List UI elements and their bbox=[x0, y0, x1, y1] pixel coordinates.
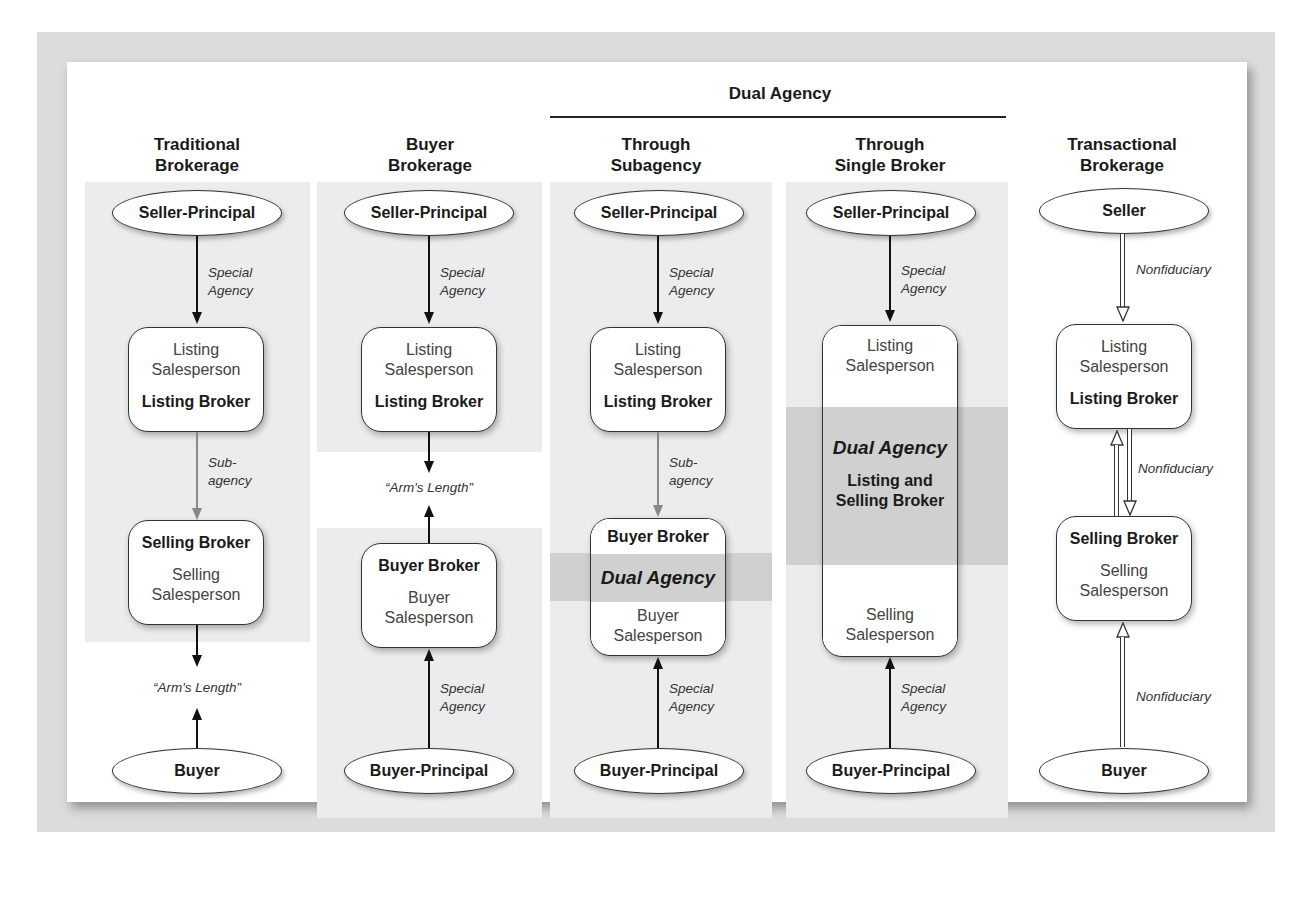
arrowhead-down-icon bbox=[424, 461, 434, 473]
hollow-arrowhead-down-icon bbox=[1116, 306, 1130, 322]
label-nonfiduciary: Nonfiduciary bbox=[1136, 261, 1211, 279]
arrow-special-agency bbox=[889, 236, 891, 312]
arrow-arms-length-down bbox=[196, 625, 198, 655]
arrow-special-agency bbox=[196, 236, 198, 314]
hollow-arrowhead-up-icon bbox=[1110, 430, 1124, 446]
arrowhead-down-icon bbox=[885, 310, 895, 322]
arrowhead-down-icon bbox=[192, 312, 202, 324]
arrowhead-down-icon bbox=[192, 508, 202, 520]
node-seller-principal: Seller-Principal bbox=[806, 190, 976, 236]
label-special-agency: SpecialAgency bbox=[901, 262, 946, 298]
hollow-arrowhead-up-icon bbox=[1116, 622, 1130, 638]
column-title-traditional: TraditionalBrokerage bbox=[97, 134, 297, 176]
node-seller-principal: Seller-Principal bbox=[112, 190, 282, 236]
arrow-special-agency bbox=[657, 236, 659, 314]
arrowhead-down-icon bbox=[192, 655, 202, 667]
arrow-arms-length-up bbox=[428, 515, 430, 543]
box-listing-broker: Listing Salesperson Listing Broker bbox=[590, 327, 726, 432]
label-special-agency: SpecialAgency bbox=[208, 264, 253, 300]
label-subagency: Sub-agency bbox=[669, 454, 713, 490]
label-special-agency: SpecialAgency bbox=[440, 680, 485, 716]
box-buyer-broker: Buyer Broker Buyer Salesperson bbox=[361, 543, 497, 648]
box-selling-broker: Selling Broker Selling Salesperson bbox=[128, 520, 264, 625]
label-arms-length: “Arm's Length” bbox=[349, 480, 509, 495]
arrow-arms-length-down bbox=[428, 432, 430, 462]
column-title-transactional: TransactionalBrokerage bbox=[1022, 134, 1222, 176]
column-title-subagency: ThroughSubagency bbox=[556, 134, 756, 176]
panel-subagency bbox=[550, 182, 772, 818]
arrow-special-agency-up bbox=[889, 668, 891, 748]
box-selling-broker: Selling Broker Selling Salesperson bbox=[1056, 516, 1192, 621]
box-listing-broker: Listing Salesperson Listing Broker bbox=[128, 327, 264, 432]
label-special-agency: SpecialAgency bbox=[669, 680, 714, 716]
node-buyer: Buyer bbox=[1039, 748, 1209, 794]
arrow-special-agency-up bbox=[657, 668, 659, 748]
arrow-special-agency-up bbox=[428, 660, 430, 748]
label-special-agency: SpecialAgency bbox=[669, 264, 714, 300]
node-buyer-principal: Buyer-Principal bbox=[806, 748, 976, 794]
nonfiduciary-link-down bbox=[1127, 429, 1132, 501]
node-buyer-principal: Buyer-Principal bbox=[574, 748, 744, 794]
hollow-arrowhead-down-icon bbox=[1123, 500, 1137, 516]
label-arms-length: “Arm's Length” bbox=[117, 680, 277, 695]
arrowhead-down-icon bbox=[653, 312, 663, 324]
arrow-subagency bbox=[657, 432, 659, 507]
node-seller: Seller bbox=[1039, 188, 1209, 234]
label-special-agency: SpecialAgency bbox=[901, 680, 946, 716]
node-buyer: Buyer bbox=[112, 748, 282, 794]
nonfiduciary-link bbox=[1120, 637, 1125, 747]
dual-agency-label: Dual Agency bbox=[591, 554, 725, 602]
column-title-buyer: BuyerBrokerage bbox=[330, 134, 530, 176]
dual-agency-label: Dual Agency bbox=[823, 437, 957, 459]
label-nonfiduciary: Nonfiduciary bbox=[1138, 460, 1213, 478]
dual-agency-group-rule bbox=[550, 116, 1006, 118]
label-subagency: Sub-agency bbox=[208, 454, 252, 490]
box-single-broker-dual: Listing Salesperson Dual Agency Listing … bbox=[822, 325, 958, 657]
arrowhead-down-icon bbox=[653, 505, 663, 517]
nonfiduciary-link bbox=[1120, 234, 1125, 308]
label-special-agency: SpecialAgency bbox=[440, 264, 485, 300]
dual-agency-group-title: Dual Agency bbox=[550, 84, 1010, 104]
box-listing-broker: Listing Salesperson Listing Broker bbox=[361, 327, 497, 432]
box-listing-broker: Listing Salesperson Listing Broker bbox=[1056, 324, 1192, 429]
nonfiduciary-link-up bbox=[1114, 445, 1119, 517]
node-buyer-principal: Buyer-Principal bbox=[344, 748, 514, 794]
column-title-single-broker: ThroughSingle Broker bbox=[790, 134, 990, 176]
arrow-subagency bbox=[196, 432, 198, 510]
arrow-special-agency bbox=[428, 236, 430, 314]
box-buyer-broker-dual: Buyer Broker Dual Agency Buyer Salespers… bbox=[590, 518, 726, 656]
arrowhead-down-icon bbox=[424, 312, 434, 324]
node-seller-principal: Seller-Principal bbox=[344, 190, 514, 236]
arrow-arms-length-up bbox=[196, 718, 198, 748]
label-nonfiduciary: Nonfiduciary bbox=[1136, 688, 1211, 706]
node-seller-principal: Seller-Principal bbox=[574, 190, 744, 236]
